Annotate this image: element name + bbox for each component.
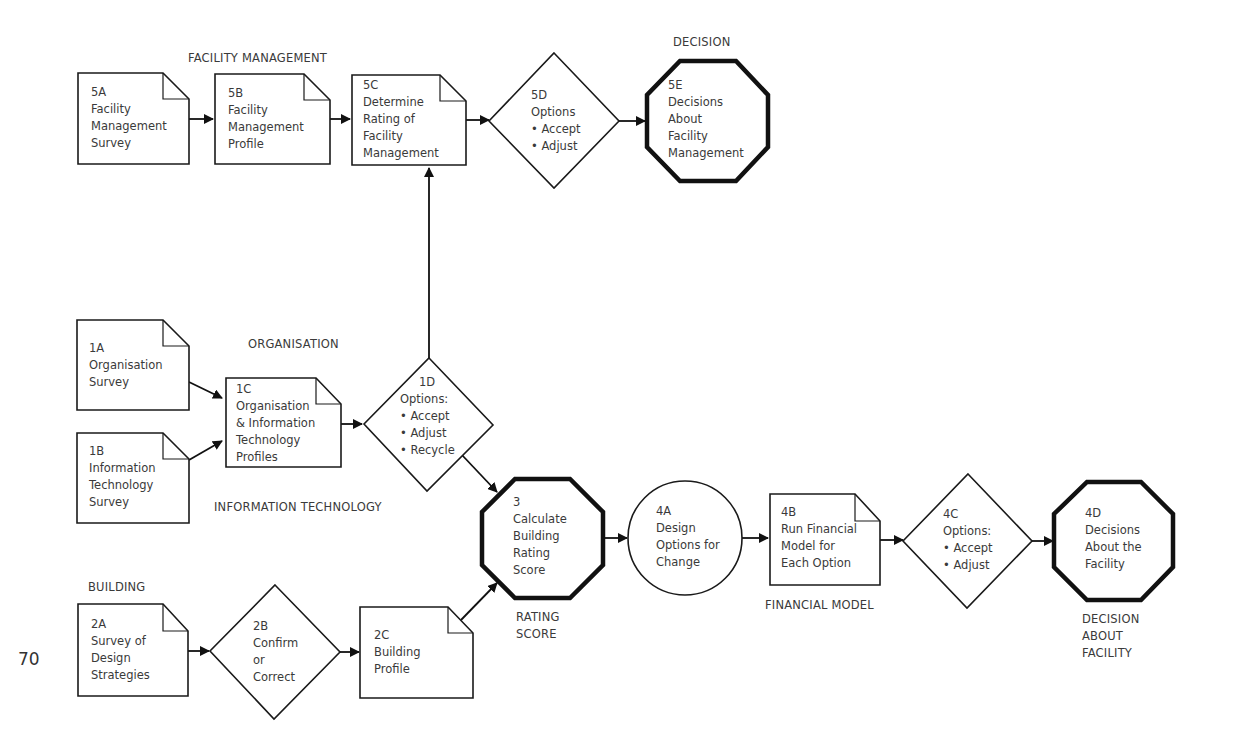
section-label-information-technology: INFORMATION TECHNOLOGY [214, 500, 382, 514]
node-4A-circle[interactable]: 4ADesignOptions forChange [628, 481, 742, 595]
edge-1B-1C [189, 441, 222, 460]
node-2C-document[interactable]: 2CBuildingProfile [360, 607, 473, 698]
section-label-decision-about-facility-3: FACILITY [1082, 646, 1133, 660]
section-label-financial-model: FINANCIAL MODEL [765, 598, 874, 612]
node-5C-document[interactable]: 5CDetermineRating ofFacilityManagement [352, 75, 466, 165]
flowchart-canvas: 70 FACILITY MANAGEMENT DECISION ORGANISA… [0, 0, 1242, 754]
node-1B-document[interactable]: 1BInformationTechnologySurvey [77, 433, 189, 523]
node-4B-document[interactable]: 4BRun FinancialModel forEach Option [770, 494, 880, 585]
section-label-organisation: ORGANISATION [248, 337, 339, 351]
section-label-facility-management: FACILITY MANAGEMENT [188, 51, 328, 65]
node-5A-document[interactable]: 5AFacilityManagementSurvey [78, 73, 189, 164]
node-5E-octagon[interactable]: 5EDecisionsAboutFacilityManagement [647, 61, 768, 181]
node-1C-document[interactable]: 1COrganisation& InformationTechnologyPro… [226, 378, 341, 467]
node-2B-decision[interactable]: 2BConfirmorCorrect [210, 585, 340, 719]
section-label-building: BUILDING [88, 580, 145, 594]
node-5B-document[interactable]: 5BFacilityManagementProfile [215, 74, 330, 164]
node-4D-octagon[interactable]: 4DDecisionsAbout theFacility [1054, 482, 1173, 600]
node-1A-document[interactable]: 1AOrganisationSurvey [77, 320, 189, 410]
edge-1D-3 [462, 455, 497, 492]
section-label-decision: DECISION [673, 35, 731, 49]
node-1D-decision[interactable]: 1DOptions:• Accept• Adjust• Recycle [364, 358, 493, 491]
node-3-octagon[interactable]: 3CalculateBuildingRatingScore [482, 479, 603, 598]
section-label-decision-about-facility-1: DECISION [1082, 612, 1140, 626]
node-5D-decision[interactable]: 5DOptions• Accept• Adjust [489, 53, 619, 188]
node-4C-decision[interactable]: 4COptions:• Accept• Adjust [903, 474, 1032, 608]
edge-1A-1C [189, 382, 222, 398]
page-number: 70 [18, 649, 40, 669]
section-label-rating-score-2: SCORE [516, 627, 557, 641]
section-label-rating-score-1: RATING [516, 610, 560, 624]
section-label-decision-about-facility-2: ABOUT [1082, 629, 1124, 643]
edge-2C-3 [461, 583, 497, 620]
node-2A-document[interactable]: 2ASurvey ofDesignStrategies [78, 604, 188, 696]
